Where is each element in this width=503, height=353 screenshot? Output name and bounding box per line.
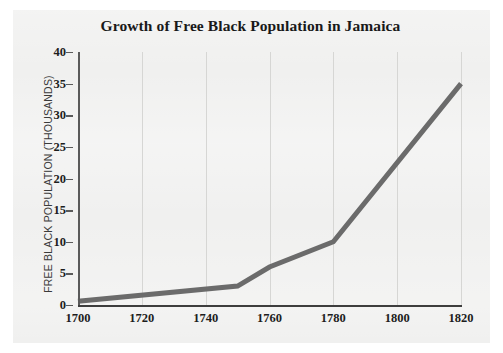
y-axis-tick-label-10: 10 (26, 234, 66, 249)
chart-title: Growth of Free Black Population in Jamai… (0, 17, 503, 35)
chart-figure: Growth of Free Black Population in Jamai… (0, 0, 503, 353)
y-axis-tick-20 (66, 179, 73, 180)
y-axis-tick-0 (66, 305, 73, 306)
y-axis-tick-15 (66, 210, 73, 211)
y-axis-tick-25 (66, 147, 73, 148)
y-axis-tick-labels: 0510152025303540 (26, 52, 66, 305)
y-axis-tick-label-30: 30 (26, 108, 66, 123)
data-series-line (78, 52, 461, 305)
y-axis-tick-30 (66, 115, 73, 116)
y-axis-line (78, 52, 80, 306)
y-axis-tick-label-15: 15 (26, 203, 66, 218)
x-axis-line (78, 305, 462, 307)
chart-title-text: Growth of Free Black Population in Jamai… (101, 17, 401, 35)
x-axis-tick-labels: 1700172017401760178018001820 (78, 311, 461, 333)
y-axis-tick-label-25: 25 (26, 139, 66, 154)
y-axis-tick-label-40: 40 (26, 45, 66, 60)
y-axis-tick-40 (66, 52, 73, 53)
y-axis-tick-35 (66, 84, 73, 85)
plot-area (78, 52, 461, 305)
y-axis-tick-label-5: 5 (26, 266, 66, 281)
gridline-vertical-1820 (461, 52, 462, 305)
y-axis-tick-10 (66, 242, 73, 243)
x-axis-tick-label-1820: 1820 (421, 311, 501, 326)
y-axis-tick-label-35: 35 (26, 76, 66, 91)
y-axis-tick-5 (66, 273, 73, 274)
y-axis-tick-label-20: 20 (26, 171, 66, 186)
